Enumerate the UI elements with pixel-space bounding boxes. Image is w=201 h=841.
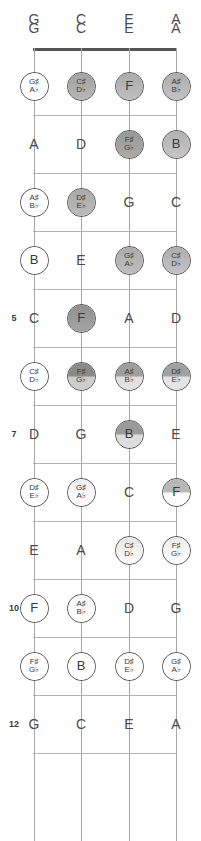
note-marker-E-4[interactable]: G♯A♭ [115,246,144,275]
note-label: D♯E♭ [76,194,85,210]
fret-line-3 [33,231,177,232]
note-label-G-2: A [29,137,38,151]
note-marker-E-11[interactable]: D♯E♭ [115,652,144,681]
note-label-C-2: D [76,137,86,151]
note-marker-A-9[interactable]: F♯G♭ [162,536,191,565]
note-marker-G-6[interactable]: C♯D♭ [20,362,49,391]
note-cell-E-9: C♯D♭ [106,532,152,568]
note-label: B [77,659,85,672]
note-label-E-5: A [124,311,133,325]
note-cell-G-12: G [11,706,57,742]
note-marker-G-3[interactable]: A♯B♭ [20,188,49,217]
note-marker-G-10[interactable]: F [20,594,49,623]
note-marker-E-6[interactable]: A♯B♭ [115,362,144,391]
note-marker-G-4[interactable]: B [20,246,49,275]
note-label: C♯D♭ [124,542,133,558]
note-cell-C-1: C♯D♭ [58,68,104,104]
note-cell-G-10: F [11,590,57,626]
note-label: A♯B♭ [125,368,134,384]
fret-line-5 [33,347,177,348]
note-marker-C-6[interactable]: F♯G♭ [67,362,96,391]
note-label: C♯D♭ [171,252,180,268]
note-marker-G-11[interactable]: F♯G♭ [20,652,49,681]
note-cell-C-7: G [58,416,104,452]
note-marker-G-1[interactable]: G♯A♭ [20,72,49,101]
note-cell-G-5: C [11,300,57,336]
note-marker-G-8[interactable]: D♯E♭ [20,478,49,507]
note-cell-C-8: G♯A♭ [58,474,104,510]
fret-line-6 [33,405,177,406]
nut-bar [33,48,177,51]
note-label-A-0: A [171,12,180,26]
note-label-C-9: A [76,543,85,557]
note-cell-E-11: D♯E♭ [106,648,152,684]
note-cell-G-2: A [11,126,57,162]
note-cell-E-12: E [106,706,152,742]
note-marker-A-2[interactable]: B [162,130,191,159]
note-label-E-12: E [124,717,133,731]
note-cell-G-11: F♯G♭ [11,648,57,684]
note-label: A♯B♭ [30,194,39,210]
note-cell-C-9: A [58,532,104,568]
note-cell-G-1: G♯A♭ [11,68,57,104]
note-marker-C-1[interactable]: C♯D♭ [67,72,96,101]
note-marker-E-9[interactable]: C♯D♭ [115,536,144,565]
note-marker-C-10[interactable]: A♯B♭ [67,594,96,623]
note-label: F [172,485,180,498]
note-cell-C-5: F [58,300,104,336]
note-marker-A-1[interactable]: A♯B♭ [162,72,191,101]
note-cell-G-6: C♯D♭ [11,358,57,394]
note-label-E-8: C [124,485,134,499]
note-cell-G-7: D [11,416,57,452]
note-label: G♯A♭ [124,252,134,268]
note-cell-E-6: A♯B♭ [106,358,152,394]
note-label: D♯E♭ [29,484,38,500]
note-cell-G-0: G [11,1,57,37]
note-marker-A-6[interactable]: D♯E♭ [162,362,191,391]
note-label-G-0: G [29,12,40,26]
note-label-A-3: C [171,195,181,209]
note-label: B [172,137,180,150]
note-cell-A-8: F [153,474,199,510]
note-cell-C-12: C [58,706,104,742]
note-marker-E-1[interactable]: F [115,72,144,101]
note-marker-E-2[interactable]: F♯G♭ [115,130,144,159]
note-label-E-0: E [124,12,133,26]
note-label-A-10: G [171,601,182,615]
note-cell-E-8: C [106,474,152,510]
note-label-G-5: C [29,311,39,325]
note-cell-C-11: B [58,648,104,684]
note-marker-C-11[interactable]: B [67,652,96,681]
note-cell-G-3: A♯B♭ [11,184,57,220]
note-label-G-12: G [29,717,40,731]
note-label: F♯G♭ [124,136,134,152]
note-cell-A-1: A♯B♭ [153,68,199,104]
note-marker-C-5[interactable]: F [67,304,96,333]
note-marker-A-8[interactable]: F [162,478,191,507]
fretboard-diagram: GCEA571012GCEAG♯A♭C♯D♭FA♯B♭ADF♯G♭BA♯B♭D♯… [0,0,201,841]
note-cell-E-4: G♯A♭ [106,242,152,278]
note-label: F♯G♭ [76,368,86,384]
note-marker-C-3[interactable]: D♯E♭ [67,188,96,217]
note-cell-A-5: D [153,300,199,336]
note-label: A♯B♭ [77,600,86,616]
fret-line-8 [33,521,177,522]
note-marker-A-4[interactable]: C♯D♭ [162,246,191,275]
note-label: C♯D♭ [76,78,85,94]
fret-line-12 [33,753,177,754]
note-cell-C-4: E [58,242,104,278]
note-label: G♯A♭ [76,484,86,500]
fret-line-11 [33,695,177,696]
note-label-A-7: E [171,427,180,441]
note-label: B [125,427,133,440]
note-label: F [77,311,85,324]
note-marker-E-7[interactable]: B [115,420,144,449]
note-label-C-7: G [76,427,87,441]
note-marker-A-11[interactable]: G♯A♭ [162,652,191,681]
note-cell-E-0: E [106,1,152,37]
note-label: A♯B♭ [172,78,181,94]
note-label-A-12: A [171,717,180,731]
note-marker-C-8[interactable]: G♯A♭ [67,478,96,507]
note-label: B [30,253,38,266]
note-label-C-0: C [76,12,86,26]
